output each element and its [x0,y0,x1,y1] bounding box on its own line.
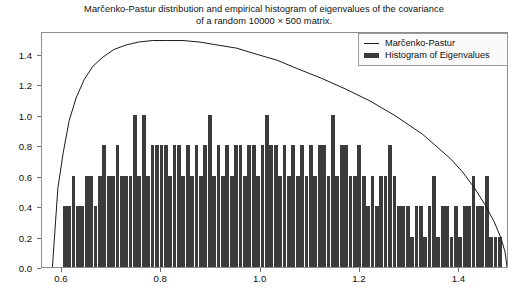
line-swatch-icon [363,38,380,49]
legend-label-histogram: Histogram of Eigenvalues [385,50,490,61]
y-tick-label: 0.8 [2,141,32,152]
x-tick-label: 0.8 [140,273,180,284]
y-tick-label: 1.0 [2,110,32,121]
x-tick-mark [61,268,62,272]
marcenko-pastur-curve [42,33,507,267]
legend-label-curve: Marčenko-Pastur [385,38,455,49]
y-tick-label: 0.4 [2,202,32,213]
y-tick-label: 0.6 [2,171,32,182]
plot-area [41,32,508,268]
x-tick-mark [359,268,360,272]
chart-title-line-2: of a random 10000 × 500 matrix. [0,15,528,27]
legend-item-curve: Marčenko-Pastur [363,38,502,49]
marcenko-pastur-path [52,41,507,267]
chart-legend: Marčenko-Pastur Histogram of Eigenvalues [358,33,508,66]
chart-title: Marčenko-Pastur distribution and empiric… [0,3,528,28]
chart-title-line-1: Marčenko-Pastur distribution and empiric… [0,3,528,15]
x-tick-mark [260,268,261,272]
bar-swatch-icon [363,50,380,61]
chart-figure: Marčenko-Pastur distribution and empiric… [0,0,528,296]
y-tick-label: 0.0 [2,263,32,274]
x-tick-label: 1.4 [438,273,478,284]
x-tick-mark [160,268,161,272]
y-tick-label: 0.2 [2,232,32,243]
y-tick-label: 1.4 [2,49,32,60]
x-tick-label: 0.6 [41,273,81,284]
y-tick-label: 1.2 [2,80,32,91]
legend-item-histogram: Histogram of Eigenvalues [363,50,502,61]
x-tick-label: 1.2 [339,273,379,284]
x-tick-mark [458,268,459,272]
x-tick-label: 1.0 [240,273,280,284]
y-tick-mark [37,268,41,269]
